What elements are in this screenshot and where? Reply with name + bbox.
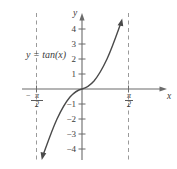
y-tick-label-minus-1: −1	[62, 100, 76, 109]
y-tick-label-minus-4: −4	[62, 145, 76, 154]
x-tick-label-minus-pi-over-2: − π 2	[30, 92, 44, 110]
y-tick-label-minus-3: −3	[62, 130, 76, 139]
y-axis-arrowhead	[79, 13, 84, 21]
tangent-function-graph: y x y = tan(x) 4 3 2 1 −1 −2 −3 −4 − π 2…	[0, 0, 177, 169]
curve-arrowhead-bottom	[41, 152, 47, 160]
two-denominator-right: 2	[124, 101, 134, 109]
function-label: y = tan(x)	[26, 50, 66, 60]
y-axis-label: y	[73, 9, 77, 19]
x-axis-arrowhead	[160, 86, 168, 91]
pi-numerator-left: π	[30, 92, 44, 100]
two-denominator-left: 2	[30, 101, 44, 109]
minus-sign-glyph: −	[26, 92, 31, 100]
y-tick-label-1: 1	[66, 70, 76, 79]
x-tick-label-pi-over-2: π 2	[124, 92, 134, 110]
curve-arrowhead-top	[118, 19, 124, 27]
x-axis-label: x	[167, 92, 171, 102]
y-tick-label-4: 4	[66, 25, 76, 34]
plot-canvas	[0, 0, 177, 169]
y-tick-label-minus-2: −2	[62, 115, 76, 124]
pi-numerator-right: π	[124, 92, 134, 100]
y-tick-label-2: 2	[66, 55, 76, 64]
y-tick-label-3: 3	[66, 40, 76, 49]
